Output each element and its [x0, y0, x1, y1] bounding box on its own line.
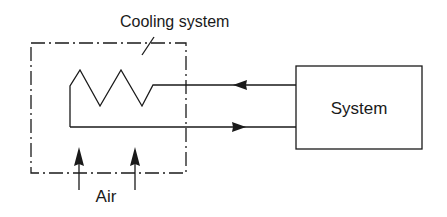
cooling-system-leader-line [142, 37, 154, 55]
arrow-right-icon [232, 122, 246, 132]
arrow-up-icon [74, 147, 84, 166]
air-arrow-left [74, 147, 84, 190]
arrow-left-icon [233, 80, 247, 90]
cooling-system-boundary [31, 43, 186, 173]
arrow-up-icon [130, 147, 140, 166]
heat-exchanger-coil [70, 70, 296, 127]
system-label: System [331, 99, 388, 118]
air-arrow-right [130, 147, 140, 190]
air-label: Air [96, 187, 117, 206]
cooling-system-label: Cooling system [120, 13, 229, 30]
cooling-system-diagram: Cooling system System Air [0, 0, 447, 217]
